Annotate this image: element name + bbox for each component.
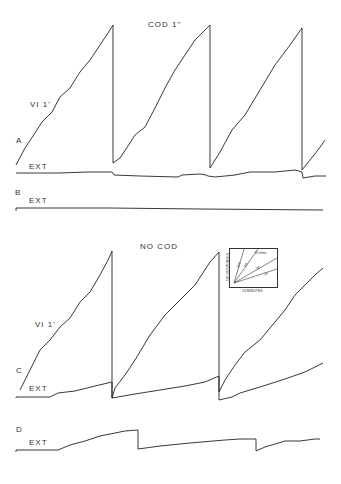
rate-unit: R's/min	[255, 251, 267, 255]
ext-label-c: EXT	[29, 384, 48, 393]
rate-legend-inset: 120 60 R's/min 30 15	[229, 248, 278, 288]
ext-label-a: EXT	[29, 162, 48, 171]
panel-a-vi-record	[16, 25, 325, 170]
panel-c-ext-record	[16, 363, 323, 400]
schedule-label-vi-a: VI 1'	[30, 100, 51, 109]
panel-label-d: D	[16, 425, 23, 434]
ext-label-d: EXT	[29, 438, 48, 447]
panel-a-ext-record	[16, 170, 326, 178]
inset-xlabel: 10 MINUTES	[242, 289, 263, 293]
condition-title-no-cod: NO COD	[140, 242, 178, 251]
panel-b-ext-record	[16, 208, 323, 211]
panel-d-ext-record	[16, 430, 320, 452]
panel-label-a: A	[16, 136, 22, 145]
figure: COD 1" VI 1' A EXT B EXT NO COD VI 1' C …	[0, 0, 341, 484]
panel-label-c: C	[16, 366, 23, 375]
schedule-label-vi-c: VI 1'	[35, 320, 56, 329]
ext-label-b: EXT	[29, 196, 48, 205]
condition-title-cod: COD 1"	[148, 20, 181, 29]
panel-label-b: B	[15, 188, 21, 197]
inset-ylabel: 500 RESPONSES	[226, 253, 230, 282]
